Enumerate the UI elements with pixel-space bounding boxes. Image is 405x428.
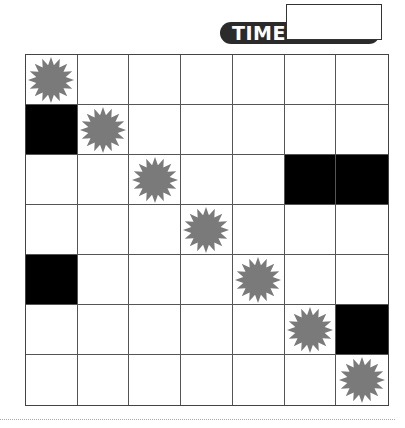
board-cell-r6-c1[interactable] xyxy=(78,355,130,405)
board-cell-r6-c6[interactable] xyxy=(336,355,388,405)
board-cell-r6-c3[interactable] xyxy=(181,355,233,405)
dotted-divider xyxy=(0,419,395,420)
timer-label: TIME xyxy=(232,22,286,44)
star-icon xyxy=(27,56,75,104)
board-cell-r0-c6[interactable] xyxy=(336,55,388,105)
board-cell-r3-c6[interactable] xyxy=(336,205,388,255)
timer: TIME xyxy=(220,4,390,44)
board-cell-r2-c1[interactable] xyxy=(78,155,130,205)
board-cell-r0-c4[interactable] xyxy=(233,55,285,105)
star-icon xyxy=(79,106,127,154)
board-cell-r1-c0[interactable] xyxy=(26,105,78,155)
star-icon xyxy=(182,206,230,254)
timer-value-box xyxy=(286,4,382,40)
board-cell-r4-c4[interactable] xyxy=(233,255,285,305)
board-cell-r6-c5[interactable] xyxy=(285,355,337,405)
board-cell-r6-c2[interactable] xyxy=(129,355,181,405)
board-cell-r3-c5[interactable] xyxy=(285,205,337,255)
board-cell-r3-c4[interactable] xyxy=(233,205,285,255)
board-cell-r5-c1[interactable] xyxy=(78,305,130,355)
board-cell-r4-c0[interactable] xyxy=(26,255,78,305)
star-icon xyxy=(234,256,282,304)
board-cell-r5-c0[interactable] xyxy=(26,305,78,355)
board-cell-r0-c3[interactable] xyxy=(181,55,233,105)
board-cell-r2-c0[interactable] xyxy=(26,155,78,205)
board-cell-r4-c1[interactable] xyxy=(78,255,130,305)
board-cell-r5-c2[interactable] xyxy=(129,305,181,355)
board-cell-r2-c3[interactable] xyxy=(181,155,233,205)
board-cell-r3-c1[interactable] xyxy=(78,205,130,255)
board-cell-r4-c6[interactable] xyxy=(336,255,388,305)
board-cell-r0-c1[interactable] xyxy=(78,55,130,105)
board-cell-r3-c0[interactable] xyxy=(26,205,78,255)
board-cell-r6-c0[interactable] xyxy=(26,355,78,405)
board-cell-r5-c3[interactable] xyxy=(181,305,233,355)
board-cell-r5-c6[interactable] xyxy=(336,305,388,355)
board-cell-r2-c6[interactable] xyxy=(336,155,388,205)
board-cell-r5-c4[interactable] xyxy=(233,305,285,355)
board-cell-r4-c5[interactable] xyxy=(285,255,337,305)
board-cell-r6-c4[interactable] xyxy=(233,355,285,405)
board-cell-r1-c5[interactable] xyxy=(285,105,337,155)
board-cell-r5-c5[interactable] xyxy=(285,305,337,355)
board-cell-r3-c3[interactable] xyxy=(181,205,233,255)
board-cell-r0-c5[interactable] xyxy=(285,55,337,105)
star-icon xyxy=(338,356,386,404)
star-icon xyxy=(286,306,334,354)
board-cell-r1-c4[interactable] xyxy=(233,105,285,155)
board-cell-r1-c6[interactable] xyxy=(336,105,388,155)
star-icon xyxy=(131,156,179,204)
board-cell-r4-c2[interactable] xyxy=(129,255,181,305)
board-cell-r4-c3[interactable] xyxy=(181,255,233,305)
board-cell-r1-c3[interactable] xyxy=(181,105,233,155)
board-cell-r1-c1[interactable] xyxy=(78,105,130,155)
board-cell-r2-c2[interactable] xyxy=(129,155,181,205)
board-cell-r3-c2[interactable] xyxy=(129,205,181,255)
board-cell-r2-c4[interactable] xyxy=(233,155,285,205)
board-cell-r0-c0[interactable] xyxy=(26,55,78,105)
board-cell-r0-c2[interactable] xyxy=(129,55,181,105)
board-cell-r2-c5[interactable] xyxy=(285,155,337,205)
board-cell-r1-c2[interactable] xyxy=(129,105,181,155)
game-board xyxy=(25,54,389,406)
